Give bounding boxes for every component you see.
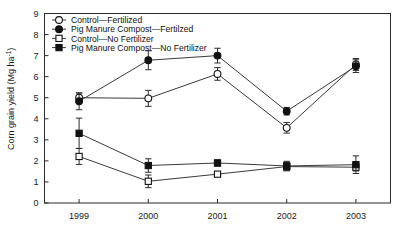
legend-item-4[interactable]: Pig Manure Compost—No Fertilizer xyxy=(52,43,207,53)
legend-marker-filled-square xyxy=(56,45,62,51)
data-point xyxy=(214,71,221,78)
data-point xyxy=(145,178,151,184)
legend-item-label: Pig Manure Compost—No Fertilizer xyxy=(71,43,207,53)
x-tick-label: 2003 xyxy=(346,211,366,221)
data-point xyxy=(284,163,290,169)
y-axis-title: Corn grain yield (Mg ha-1) xyxy=(5,48,16,150)
data-point xyxy=(76,130,82,136)
data-point xyxy=(76,98,83,105)
svg-text:Corn grain yield (Mg ha-1): Corn grain yield (Mg ha-1) xyxy=(5,48,16,150)
data-point xyxy=(145,162,151,168)
legend-marker-filled-circle xyxy=(56,26,63,33)
x-tick-label: 2002 xyxy=(277,211,297,221)
data-point xyxy=(76,153,82,159)
data-point xyxy=(283,124,290,131)
data-point xyxy=(353,162,359,168)
y-tick-label: 9 xyxy=(33,9,38,19)
y-tick-label: 1 xyxy=(33,177,38,187)
chart-figure: Corn grain yield (Mg ha-1) 0123456789 19… xyxy=(0,0,411,237)
data-point xyxy=(145,95,152,102)
x-tick-label: 2001 xyxy=(207,211,227,221)
y-tick-label: 6 xyxy=(33,72,38,82)
y-tick-label: 8 xyxy=(33,30,38,40)
data-point xyxy=(214,52,221,59)
data-point xyxy=(214,171,220,177)
y-tick-label: 0 xyxy=(33,198,38,208)
x-tick-label: 2000 xyxy=(138,211,158,221)
y-tick-label: 7 xyxy=(33,51,38,61)
y-tick-label: 4 xyxy=(33,114,38,124)
y-axis-title-text: Corn grain yield (Mg ha xyxy=(6,56,16,150)
legend-marker-open-circle xyxy=(56,17,63,24)
line-chart: Corn grain yield (Mg ha-1) 0123456789 19… xyxy=(0,0,411,237)
data-point xyxy=(145,57,152,64)
legend-marker-open-square xyxy=(56,35,62,41)
y-tick-label: 3 xyxy=(33,135,38,145)
data-point xyxy=(283,108,290,115)
data-point xyxy=(353,63,360,70)
y-tick-label: 2 xyxy=(33,156,38,166)
y-tick-label: 5 xyxy=(33,93,38,103)
y-axis-title-tail: ) xyxy=(6,48,16,51)
x-tick-label: 1999 xyxy=(69,211,89,221)
data-point xyxy=(214,160,220,166)
